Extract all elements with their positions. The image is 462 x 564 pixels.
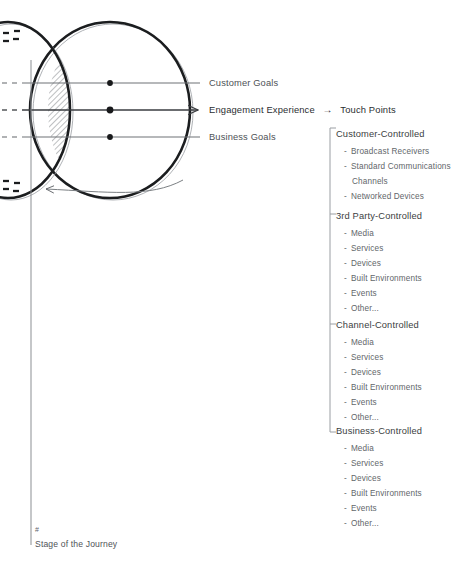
list-bullet-dash: -: [344, 368, 347, 377]
list-bullet-dash: -: [344, 398, 347, 407]
rule-business-goals: [2, 134, 200, 140]
touch-points-item-label: Other...: [351, 413, 379, 422]
curve-lead-dashes: [3, 31, 20, 191]
touch-points-group-customer-controlled: Customer-Controlled: [336, 128, 425, 140]
touch-points-item-label: Media: [351, 338, 374, 347]
rule-customer-goals: [2, 80, 200, 86]
touch-points-item-label: Other...: [351, 304, 379, 313]
flow-arrow-icon: →: [323, 104, 333, 115]
list-bullet-dash: -: [344, 289, 347, 298]
touch-points-title: Touch Points: [340, 104, 395, 115]
list-bullet-dash: -: [344, 192, 347, 201]
row-label-customer-goals: Customer Goals: [209, 77, 278, 89]
touch-points-item: -Media: [344, 228, 374, 239]
touch-points-item-label: Services: [351, 353, 384, 362]
touch-points-item: -Media: [344, 443, 374, 454]
touch-points-item-label: Standard Communications: [351, 162, 451, 171]
touch-points-item-label: Broadcast Receivers: [351, 147, 429, 156]
touch-points-item-label: Built Environments: [351, 274, 422, 283]
list-bullet-dash: -: [344, 147, 347, 156]
touch-points-item: -Services: [344, 352, 384, 363]
return-arrow: [46, 180, 183, 192]
list-bullet-dash: -: [344, 413, 347, 422]
list-bullet-dash: -: [344, 162, 347, 171]
touch-points-item-label: Events: [351, 398, 377, 407]
touch-points-item: -Standard Communications: [344, 161, 451, 172]
journey-axis-label: Stage of the Journey: [35, 538, 117, 550]
list-bullet-dash: -: [344, 519, 347, 528]
touch-points-item: -Events: [344, 397, 377, 408]
touch-points-item-label: Networked Devices: [351, 192, 424, 201]
touch-points-item-label: Built Environments: [351, 489, 422, 498]
list-bullet-dash: -: [344, 353, 347, 362]
row-label-engagement-experience: Engagement Experience → Touch Points: [209, 104, 396, 116]
touch-points-item-label: Events: [351, 504, 377, 513]
touch-points-item-label: Media: [351, 229, 374, 238]
touch-points-item: -Broadcast Receivers: [344, 146, 429, 157]
journey-axis-marker: #: [35, 524, 39, 536]
touch-points-item: -Services: [344, 458, 384, 469]
list-bullet-dash: -: [344, 489, 347, 498]
row-label-business-goals: Business Goals: [209, 131, 276, 143]
touch-points-item-label: Devices: [351, 368, 381, 377]
list-bullet-dash: -: [344, 304, 347, 313]
list-bullet-dash: -: [344, 338, 347, 347]
touch-points-item: -Devices: [344, 367, 381, 378]
list-bullet-dash: -: [344, 259, 347, 268]
touch-points-item-label: Services: [351, 244, 384, 253]
touch-points-item: -Services: [344, 243, 384, 254]
touch-points-item: -Networked Devices: [344, 191, 424, 202]
touch-points-item: -Other...: [344, 303, 379, 314]
list-bullet-dash: -: [344, 504, 347, 513]
touch-points-item-label: Built Environments: [351, 383, 422, 392]
list-bullet-dash: -: [344, 459, 347, 468]
touch-points-item-label: Channels: [352, 177, 388, 186]
touch-points-item: -Devices: [344, 258, 381, 269]
engagement-experience-text: Engagement Experience: [209, 104, 315, 115]
touch-points-group-third-party-controlled: 3rd Party-Controlled: [336, 210, 422, 222]
touch-points-item: -Media: [344, 337, 374, 348]
list-bullet-dash: -: [344, 274, 347, 283]
touch-points-item: Channels: [352, 176, 388, 187]
touch-points-item: -Built Environments: [344, 273, 422, 284]
touch-points-bracket: [330, 128, 336, 432]
list-bullet-dash: -: [344, 444, 347, 453]
diagram-canvas: Customer Goals Engagement Experience → T…: [0, 0, 462, 564]
touch-points-item-label: Services: [351, 459, 384, 468]
list-bullet-dash: -: [344, 383, 347, 392]
touch-points-item-label: Media: [351, 444, 374, 453]
touch-points-item-label: Other...: [351, 519, 379, 528]
touch-points-item: -Events: [344, 288, 377, 299]
touch-points-item: -Devices: [344, 473, 381, 484]
touch-points-group-channel-controlled: Channel-Controlled: [336, 319, 419, 331]
touch-points-item: -Other...: [344, 412, 379, 423]
touch-points-item-label: Devices: [351, 474, 381, 483]
list-bullet-dash: -: [344, 244, 347, 253]
list-bullet-dash: -: [344, 229, 347, 238]
touch-points-item: -Built Environments: [344, 382, 422, 393]
list-bullet-dash: -: [344, 474, 347, 483]
touch-points-item: -Events: [344, 503, 377, 514]
touch-points-item: -Built Environments: [344, 488, 422, 499]
touch-points-group-business-controlled: Business-Controlled: [336, 425, 422, 437]
touch-points-item-label: Devices: [351, 259, 381, 268]
touch-points-item-label: Events: [351, 289, 377, 298]
touch-points-item: -Other...: [344, 518, 379, 529]
